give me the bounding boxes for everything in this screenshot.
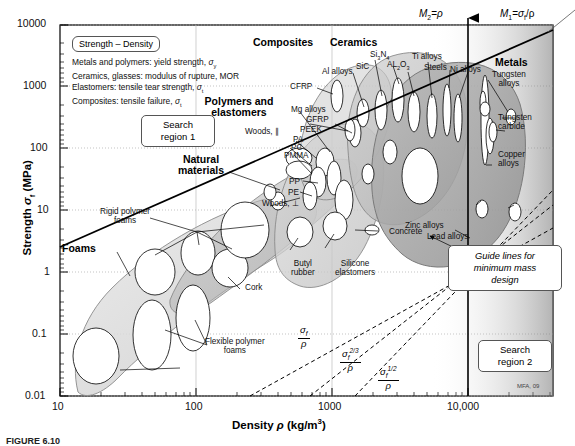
x-tick-10: 10 [52,401,64,412]
y-axis-title: Strength σf (MPa) [21,153,37,263]
label-steels: Steels [424,64,447,73]
label-tungsten-carbide: Tungstencarbide [498,114,532,131]
label-mg-alloys: Mg alloys [291,106,326,115]
label-pp: PP [289,178,300,187]
bubble-misc-2 [480,102,490,116]
bubble-metal-group [402,148,438,204]
label-copper-alloys: Copperalloys [498,151,525,168]
bubble-sic [375,90,387,130]
search-region-1-line1: Search [147,119,209,131]
label-ti-alloys: Ti alloys [412,53,442,62]
guide-box-line2: minimum mass [455,262,555,274]
x-tick-10000: 10,000 [447,401,479,412]
y-tick-0.1: 0.1 [32,328,47,339]
label-pmma: PMMA [284,152,309,161]
x-tick-100: 100 [185,401,203,412]
bubble-lead-alloys [509,203,521,221]
label-butyl-rubber: Butylrubber [291,260,315,277]
family-label-natural: Naturalmaterials [166,154,236,176]
bubble-al2o3 [408,92,420,132]
guide-label-sigma12-over-rho: σf1/2ρ [378,366,399,391]
y-tick-1: 1 [44,266,50,277]
mfa-credit: MFA, 09 [517,383,539,389]
search-region-2-line2: region 2 [484,356,546,368]
bubble-ni-alloys [454,94,462,142]
label-gfrp: GFRP [306,116,329,125]
bubble-woods-perp [221,202,269,258]
label-rigid-polymer-foams: Rigid polymerfoams [100,208,150,225]
y-tick-0.01: 0.01 [25,390,45,401]
y-tick-100: 100 [30,142,48,153]
label-al2o3: AL2O3 [387,61,410,71]
chart-title-box: Strength – Density [72,36,160,52]
family-label-metals: Metals [495,57,528,68]
x-axis-title: Density ρ (kg/m3) [232,418,326,431]
y-tick-10: 10 [37,204,49,215]
bubble-concrete [365,225,379,235]
label-cfrp: CFRP [290,83,312,92]
label-woods-parallel: Woods, ∥ [245,128,279,137]
search-region-1-line2: region 1 [147,131,209,143]
chart-title: Strength – Density [79,39,153,49]
label-flexible-polymer-foams: Flexible polymerfoams [205,338,265,355]
y-tick-1000: 1000 [23,80,46,91]
family-label-foams: Foams [62,243,96,254]
family-label-polymers: Polymers andelastomers [191,96,287,118]
bubble-steels [443,84,451,136]
legend-line-3: Elastomers: tensile tear strength, σt [72,82,239,96]
label-tungsten-alloys: Tungstenalloys [492,71,526,88]
legend-line-2: Ceramics, glasses: modulus of rupture, M… [72,71,239,83]
bubble-butyl-rubber [287,217,313,247]
search-region-1-box: Search region 1 [141,115,215,147]
label-silicone-elastomers: Siliconeelastomers [335,260,375,277]
bubble-silicone [323,212,347,240]
figure-caption: FIGURE 6.10 [6,436,60,446]
x-tick-1000: 1000 [318,401,341,412]
guide-lines-box: Guide lines for minimum mass design [448,245,562,291]
label-woods-perpendicular: Woods, ⊥ [262,200,299,209]
label-cork: Cork [245,284,262,293]
bubble-ceramic-misc [383,140,397,164]
bubble-zinc-alloys [476,200,488,218]
bubble-cfrp [331,80,343,112]
label-pe: PE [288,189,299,198]
family-label-composites: Composites [253,37,313,48]
bubble-ti-alloys [427,94,437,138]
guide-label-sigma23-over-rho: σf2/3ρ [340,348,361,373]
search-region-2-line1: Search [484,344,546,356]
bubble-tungsten-carbide [489,122,497,142]
label-lead-alloys: Lead alloys [427,233,468,242]
m1-index-label: M1=σf/ρ [500,8,534,21]
label-ni-alloys: Ni alloys [450,66,481,75]
guide-box-line3: design [455,274,555,286]
family-label-ceramics: Ceramics [330,37,377,48]
bubble-poly-misc [362,164,374,184]
bubble-rigid-foam-1 [135,249,175,295]
m2-index-label: M2=ρ [419,8,443,21]
bubble-flexible-foam-1 [73,328,119,384]
label-peek: PEEK [300,126,322,135]
bubble-flexible-foam-2 [133,300,171,370]
search-region-2-box: Search region 2 [478,340,552,372]
guide-label-sigma-over-rho: σfρ [298,325,310,349]
label-sic: SiC [356,63,369,72]
legend-line-1: Metals and polymers: yield strength, σy [72,57,239,71]
y-tick-10000: 10000 [17,18,46,29]
label-concrete: Concrete [389,228,422,237]
bubble-pe [303,182,317,210]
guide-box-line1: Guide lines for [455,250,555,262]
label-al-alloys: Al alloys [322,68,353,77]
